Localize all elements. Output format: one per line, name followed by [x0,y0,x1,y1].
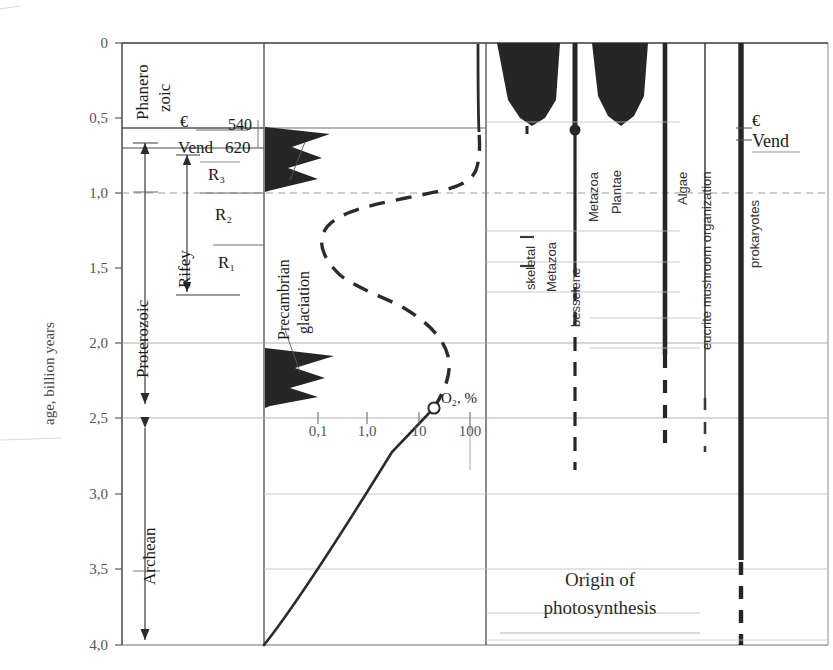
plot-frame [122,43,828,645]
organism-label-besselene: besselene [569,268,582,327]
organism-label-skeletal-metazoa: Metazoa [545,242,558,292]
x-axis-ticks [318,412,470,470]
o2-curve-top [478,44,479,132]
rifey-r3-label: R₃ [208,166,225,183]
x-tick-label: 100 [453,424,487,439]
organism-label-besselene-metazoa: Metazoa [587,172,600,222]
cambrian-age: 540 [228,117,252,133]
cambrian-symbol: € [180,114,188,130]
organism-label-eucrite: eucrite mushroom organization [700,172,713,350]
y-tick-label: 3,0 [62,487,108,502]
y-tick-label: 3,5 [62,562,108,577]
organism-label-algae: Algae [676,172,689,205]
rifey-r1-label: R₁ [218,254,235,271]
y-tick-label: 2,5 [62,411,108,426]
glaciation-label-line1: Precambrian [276,259,292,340]
glaciation-spike-lower [265,348,334,408]
glaciation-spike-upper [265,127,330,192]
organism-label-skeletal: skeletal [524,246,537,290]
right-panel-rules [486,122,828,640]
y-tick-label: 1,0 [62,186,108,201]
x-tick-label: 10 [406,424,432,439]
bar-skeletal-metazoa-wedge [497,43,560,126]
chart-canvas: 0 0,5 1,0 1,5 2,0 2,5 3,0 3,5 4,0 age, b… [0,0,833,670]
x-tick-label: 0,1 [303,424,333,439]
vendian-label: Vend [178,139,213,156]
gridlines [122,128,828,569]
o2-curve-solid [264,410,432,645]
organism-label-plantae: Plantae [610,170,623,214]
era-label-rifey: Rifey [176,250,193,288]
x-tick-label: 1,0 [352,424,382,439]
organism-label-prokaryotes: prokaryotes [748,200,761,268]
y-axis-title: age, billion years [42,322,57,425]
footer-origin-line1: Origin of [500,570,700,589]
vendian-age: 620 [225,139,251,156]
o2-curve-dashed [322,132,480,408]
era-label-phanerozoic-second-line: zoic [156,84,173,112]
right-vendian-label: Vend [752,132,789,150]
y-tick-label: 4,0 [62,638,108,653]
o2-axis-label: O₂, % [441,391,477,406]
era-label-phanerozoic: Phanero [134,64,151,120]
glaciation-label-line2: glaciation [296,271,312,334]
era-label-proterozoic: Proterozoic [134,300,151,378]
y-axis-ticks [115,43,122,645]
footer-origin-line2: photosynthesis [490,598,710,617]
y-tick-label: 0 [62,36,108,51]
bar-plantae-wedge [592,43,648,126]
right-cambrian-symbol: € [752,113,760,129]
o2-marker [428,402,439,413]
era-label-archean: Archean [141,527,158,585]
y-tick-label: 2,0 [62,336,108,351]
y-tick-label: 0,5 [62,111,108,126]
rifey-r2-label: R₂ [215,206,232,223]
y-tick-label: 1,5 [62,261,108,276]
